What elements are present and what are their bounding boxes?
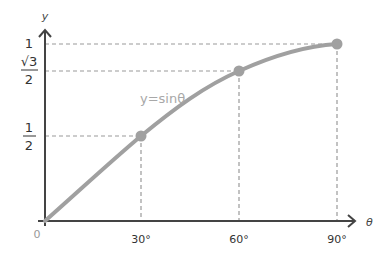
data-points (136, 39, 343, 142)
x-tick-30: 30° (131, 233, 151, 246)
axes (38, 30, 355, 227)
sine-chart: y θ 0 y=sinθ 30° 60° 90° 1 √3 2 1 2 (0, 0, 388, 258)
point-30 (136, 131, 147, 142)
x-axis-label: θ (366, 216, 373, 229)
y-tick-sqrt3-den: 2 (25, 72, 33, 87)
y-tick-half-num: 1 (25, 120, 33, 135)
y-tick-labels: 1 √3 2 1 2 (21, 36, 38, 153)
point-90 (332, 39, 343, 50)
y-tick-1: 1 (25, 36, 33, 51)
x-tick-90: 90° (327, 233, 347, 246)
origin-label: 0 (34, 228, 41, 241)
x-tick-labels: 30° 60° 90° (131, 233, 347, 246)
y-axis-label: y (41, 10, 49, 23)
guide-lines (45, 44, 337, 221)
x-tick-60: 60° (229, 233, 249, 246)
point-60 (234, 66, 245, 77)
curve-label: y=sinθ (140, 91, 185, 106)
y-tick-sqrt3-num: √3 (21, 54, 38, 69)
y-tick-half-den: 2 (25, 138, 33, 153)
